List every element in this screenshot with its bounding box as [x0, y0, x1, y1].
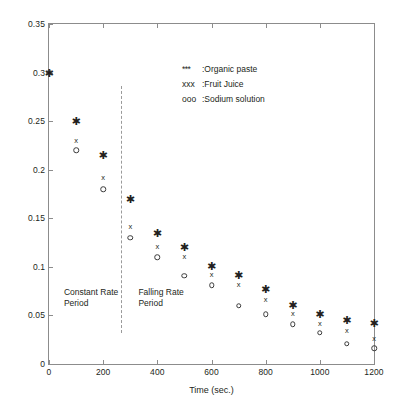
legend-item-fruit-juice: xxx:Fruit Juice — [182, 77, 265, 92]
x-axis-tick — [212, 360, 213, 364]
x-axis-tick — [157, 360, 158, 364]
x-axis-tick-top — [157, 24, 158, 28]
data-point: x — [318, 320, 322, 328]
y-axis-tick — [49, 170, 53, 171]
data-point — [73, 148, 79, 154]
x-axis-tick — [320, 360, 321, 364]
x-axis-tick-label: 1000 — [310, 367, 329, 377]
y-axis-tick-label: 0.1 — [33, 262, 45, 272]
data-point: ✱ — [288, 299, 297, 310]
y-axis-tick — [49, 121, 53, 122]
period-divider-line — [121, 86, 122, 333]
data-point: ✱ — [261, 284, 270, 295]
legend-label-sodium-solution: :Sodium solution — [202, 94, 265, 104]
data-point: x — [372, 335, 376, 343]
data-point — [236, 303, 242, 309]
legend-item-organic-paste: ***:Organic paste — [182, 62, 265, 77]
data-point: x — [345, 327, 349, 335]
data-point: x — [183, 253, 187, 261]
data-point — [155, 254, 161, 260]
y-axis-tick-label: 0.05 — [28, 310, 45, 320]
x-axis-tick-label: 400 — [150, 367, 164, 377]
data-point: x — [74, 137, 78, 145]
data-point: ✱ — [153, 227, 162, 238]
x-axis-tick-top — [212, 24, 213, 28]
plot-annotation-constant-rate-period: Constant Rate Period — [64, 287, 118, 308]
data-point: ✱ — [180, 242, 189, 253]
x-axis-tick-label: 0 — [47, 367, 52, 377]
data-point: x — [128, 223, 132, 231]
y-axis-tick — [49, 364, 53, 365]
plot-annotation-falling-rate-period: Falling Rate Period — [138, 287, 183, 308]
y-axis-tick-label: 0.15 — [28, 213, 45, 223]
x-axis-tick-label: 200 — [96, 367, 110, 377]
y-axis-tick-label: 0.2 — [33, 165, 45, 175]
x-axis-tick-top — [320, 24, 321, 28]
y-axis-tick — [49, 267, 53, 268]
x-axis-tick-label: 600 — [204, 367, 218, 377]
x-axis-tick — [266, 360, 267, 364]
data-point: x — [101, 175, 105, 183]
x-axis-tick-top — [266, 24, 267, 28]
y-axis-tick — [49, 73, 53, 74]
chart-figure: Mositure Content (kg/kg) Time (sec.) 00.… — [0, 0, 405, 412]
data-point: x — [264, 296, 268, 304]
data-point — [128, 235, 134, 241]
x-axis-tick-top — [49, 24, 50, 28]
y-axis-tick-label: 0 — [40, 359, 45, 369]
y-axis-tick — [49, 315, 53, 316]
legend-marker-x: xxx — [182, 77, 202, 92]
data-point: x — [155, 244, 159, 252]
legend-label-fruit-juice: :Fruit Juice — [202, 79, 244, 89]
data-point — [344, 341, 350, 347]
data-point: ✱ — [207, 260, 216, 271]
y-axis-tick-label: 0.35 — [28, 19, 45, 29]
data-point: ✱ — [369, 318, 378, 329]
data-point — [100, 186, 106, 192]
data-point — [317, 330, 323, 336]
data-point: x — [210, 271, 214, 279]
data-point: ✱ — [234, 269, 243, 280]
data-point — [182, 273, 188, 279]
data-point: ✱ — [126, 193, 135, 204]
legend-item-sodium-solution: ooo:Sodium solution — [182, 92, 265, 107]
x-axis-tick — [49, 360, 50, 364]
data-point: x — [237, 282, 241, 290]
y-axis-tick-label: 0.3 — [33, 68, 45, 78]
data-point: ✱ — [99, 150, 108, 161]
x-axis-tick-top — [103, 24, 104, 28]
x-axis-tick — [103, 360, 104, 364]
legend-marker-o: ooo — [182, 92, 202, 107]
chart-legend: ***:Organic paste xxx:Fruit Juice ooo:So… — [182, 62, 265, 107]
x-axis-tick-label: 800 — [258, 367, 272, 377]
data-point — [371, 346, 377, 352]
data-point — [209, 283, 215, 289]
x-axis-tick-label: 1200 — [364, 367, 383, 377]
data-point: x — [291, 311, 295, 319]
data-point: ✱ — [315, 309, 324, 320]
data-point — [263, 312, 269, 318]
legend-marker-star: *** — [182, 62, 202, 77]
x-axis-tick-top — [374, 24, 375, 28]
legend-label-organic-paste: :Organic paste — [202, 64, 257, 74]
y-axis-tick-label: 0.25 — [28, 116, 45, 126]
data-point: ✱ — [342, 315, 351, 326]
data-point — [290, 321, 296, 327]
y-axis-tick — [49, 218, 53, 219]
x-axis-tick — [374, 360, 375, 364]
x-axis-title: Time (sec.) — [48, 385, 375, 395]
data-point: ✱ — [71, 116, 80, 127]
